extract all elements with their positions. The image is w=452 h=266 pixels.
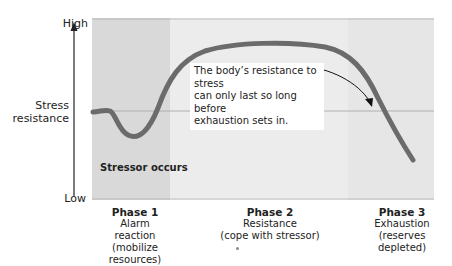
- phase2-line1: Resistance: [200, 218, 340, 230]
- phase2-title: Phase 2: [200, 206, 340, 218]
- phase1-line2: (mobilize: [100, 242, 170, 254]
- phase3-line2: (reserves: [366, 230, 438, 242]
- phase3-line3: depleted): [366, 242, 438, 254]
- y-axis-title: Stress resistance: [0, 99, 69, 125]
- phase2-label: Phase 2 Resistance (cope with stressor): [200, 206, 340, 242]
- note-line3: exhaustion sets in.: [194, 115, 320, 128]
- resistance-note: The body’s resistance to stress can only…: [190, 63, 324, 130]
- phase1-title: Phase 1: [100, 206, 170, 218]
- note-line1: The body’s resistance to stress: [194, 65, 320, 90]
- axis-low-label: Low: [28, 192, 86, 205]
- phase1-line3: resources): [100, 254, 170, 266]
- phase3-title: Phase 3: [366, 206, 438, 218]
- y-axis-title-line2: resistance: [0, 112, 69, 125]
- phase3-label: Phase 3 Exhaustion (reserves depleted): [366, 206, 438, 254]
- phase1-label: Phase 1 Alarm reaction (mobilize resourc…: [100, 206, 170, 266]
- note-line2: can only last so long before: [194, 90, 320, 115]
- phase2-line2: (cope with stressor): [200, 230, 340, 242]
- y-axis-title-line1: Stress: [0, 99, 69, 112]
- decorative-dot: [236, 247, 239, 250]
- phase3-line1: Exhaustion: [366, 218, 438, 230]
- axis-high-label: High: [28, 17, 88, 30]
- stressor-occurs-label: Stressor occurs: [100, 162, 188, 173]
- y-axis-arrow: [71, 22, 78, 196]
- phase1-line1: Alarm reaction: [100, 218, 170, 242]
